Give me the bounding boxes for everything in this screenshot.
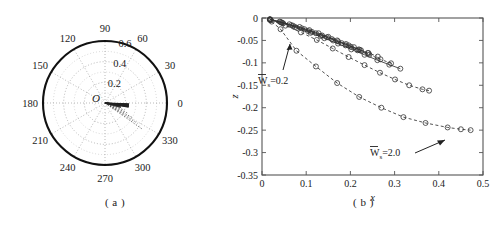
x-axis-tick-label: 0 [260,178,265,189]
polar-angular-tick-label: 120 [60,33,76,44]
y-axis-tick-label: -0.35 [237,170,258,181]
polar-plot-area [43,41,167,165]
y-axis-tick-label: -0.15 [237,80,258,91]
polar-angular-tick-label: 30 [165,60,176,71]
polar-radial-tick-label: 0.4 [113,58,127,69]
polar-radial-tick-label: 0.2 [108,78,121,89]
x-axis-tick-label: 0.5 [477,178,490,189]
data-point-marker [346,55,351,60]
data-series-line [271,20,429,90]
polar-angular-tick-label: 300 [135,162,151,173]
ws-low-value: =0.2 [270,75,288,86]
polar-spoke [74,49,105,103]
panel-b-line-chart: 00.10.20.30.40.50-0.05-0.1-0.15-0.2-0.25… [230,0,497,228]
polar-angular-tick-label: 270 [97,173,113,184]
y-axis-tick-label: -0.3 [242,147,258,158]
polar-angular-tick-label: 0 [177,98,182,109]
polar-angular-tick-label: 150 [32,60,48,71]
data-point-marker [362,63,367,68]
polar-angular-tick-label: 330 [162,135,178,146]
polar-spoke [74,103,105,157]
polar-origin-label: O [92,92,100,104]
data-point-marker [379,105,384,110]
line-chart-svg: 00.10.20.30.40.50-0.05-0.1-0.15-0.2-0.25… [230,0,497,196]
y-axis-tick-label: -0.25 [237,125,258,136]
x-axis-tick-label: 0.4 [433,178,446,189]
y-axis-tick-label: 0 [253,13,258,24]
y-axis-tick-label: -0.05 [237,35,258,46]
figure-root: 03060901201501802102402703003300.20.40.6… [0,0,497,228]
data-point-marker [294,48,299,53]
panel-a-polar-chart: 03060901201501802102402703003300.20.40.6… [0,0,230,228]
ws-low-arrow-head [287,44,293,50]
y-axis-tick-label: -0.2 [242,102,258,113]
polar-angular-tick-label: 210 [32,135,48,146]
x-axis-tick-label: 0.2 [344,178,357,189]
polar-spoke [51,103,105,134]
ws-high-annotation: Ws=2.0 [370,147,400,161]
data-series-line [272,22,471,131]
x-axis-tick-label: 0.1 [300,178,313,189]
polar-chart-svg: 03060901201501802102402703003300.20.40.6… [0,0,230,196]
data-point-marker [407,83,412,88]
polar-angular-tick-label: 90 [100,23,111,34]
y-axis-title: z [229,94,240,99]
panel-b-caption: ( b ) [230,196,497,208]
polar-radial-tick-label: 0.6 [118,38,131,49]
polar-angular-tick-label: 240 [60,162,76,173]
y-axis-tick-label: -0.1 [242,57,258,68]
ws-high-annotation-text: Ws=2.0 [370,147,400,161]
ws-high-value: =2.0 [382,147,400,158]
x-axis-tick-label: 0.3 [388,178,401,189]
polar-angular-tick-label: 60 [137,33,148,44]
panel-a-caption: ( a ) [0,196,230,208]
polar-data-ray [105,103,142,129]
polar-angular-tick-label: 180 [22,98,38,109]
